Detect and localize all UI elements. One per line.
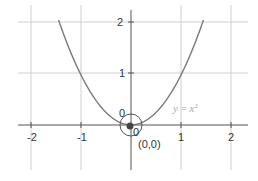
point-label: (0,0) xyxy=(138,138,161,150)
axes xyxy=(18,10,248,170)
x-tick-label: -2 xyxy=(27,131,37,143)
graph-canvas: -2 -1 1 2 2 1 0 0 (0,0) y = x2 xyxy=(0,0,258,181)
x-tick-label: 2 xyxy=(228,131,234,143)
equation-label: y = x2 xyxy=(172,102,199,114)
x-tick-label: 1 xyxy=(178,131,184,143)
x-tick-label: -1 xyxy=(77,131,87,143)
grid xyxy=(18,5,248,170)
origin-small-label: 0 xyxy=(133,126,139,138)
origin-label: 0 xyxy=(119,107,125,119)
y-tick-label: 2 xyxy=(117,16,123,28)
y-tick-label: 1 xyxy=(119,67,125,79)
